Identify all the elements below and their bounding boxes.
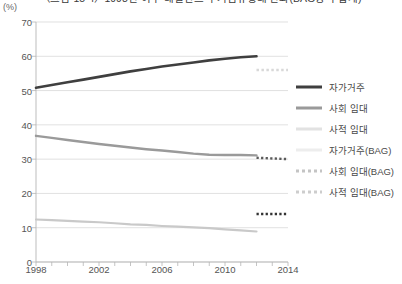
y-axis-tick-label: 30 [2,154,32,165]
legend-swatch-icon [296,82,322,92]
y-axis-unit-label: (%) [3,2,17,12]
series-line-사회 임대 [36,136,257,156]
y-axis-tick-label: 40 [2,119,32,130]
legend-swatch-icon [296,145,322,155]
plot-area [36,22,288,262]
legend-swatch-icon [296,124,322,134]
legend-label: 자가거주 [329,80,365,94]
legend-item[interactable]: 사적 임대 [296,118,400,139]
x-axis-tick-label: 2010 [214,264,235,275]
y-axis-tick-label: 70 [2,17,32,28]
legend-item[interactable]: 사적 임대(BAG) [296,181,400,202]
y-axis-tick-label: 20 [2,188,32,199]
legend-label: 사회 임대(BAG) [329,164,394,178]
chart-figure: 〈그림 15-4〉1998년 이후 네덜란드 주거점유형태 변화(BAG방식 합… [0,0,402,284]
chart-title: 〈그림 15-4〉1998년 이후 네덜란드 주거점유형태 변화(BAG방식 합… [0,0,402,4]
legend-swatch-icon [296,103,322,113]
legend-label: 사회 임대 [329,101,368,115]
x-axis-tick-label: 2014 [277,264,298,275]
x-axis-tick-label: 2002 [88,264,109,275]
y-axis-tick-label: 50 [2,85,32,96]
legend-label: 사적 임대 [329,122,368,136]
legend-swatch-icon [296,187,322,197]
y-axis-tick-label: 10 [2,222,32,233]
legend-label: 사적 임대(BAG) [329,185,394,199]
x-axis-tick-labels: 19982002200620102014 [36,264,288,280]
legend-item[interactable]: 사회 임대 [296,97,400,118]
legend-label: 자가거주(BAG) [329,143,391,157]
legend-item[interactable]: 자가거주(BAG) [296,139,400,160]
series-line-사적 임대 [36,219,257,231]
chart-legend: 자가거주사회 임대사적 임대자가거주(BAG)사회 임대(BAG)사적 임대(B… [296,76,400,202]
x-axis-tick-label: 2006 [151,264,172,275]
legend-item[interactable]: 사회 임대(BAG) [296,160,400,181]
plot-svg [36,22,288,262]
series-line-자가거주 [36,56,257,88]
legend-swatch-icon [296,166,322,176]
legend-item[interactable]: 자가거주 [296,76,400,97]
x-axis-tick-label: 1998 [25,264,46,275]
y-axis-tick-label: 60 [2,51,32,62]
y-axis-tick-labels: 010203040506070 [0,22,32,262]
